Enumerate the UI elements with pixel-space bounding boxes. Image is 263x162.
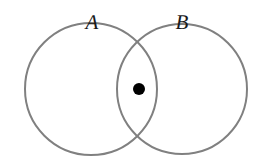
- set-label-b: B: [176, 12, 189, 33]
- set-label-a: A: [86, 12, 99, 33]
- intersection-point-dot: [133, 83, 145, 95]
- venn-diagram-figure: A B: [0, 0, 263, 162]
- venn-diagram-canvas: [0, 0, 263, 162]
